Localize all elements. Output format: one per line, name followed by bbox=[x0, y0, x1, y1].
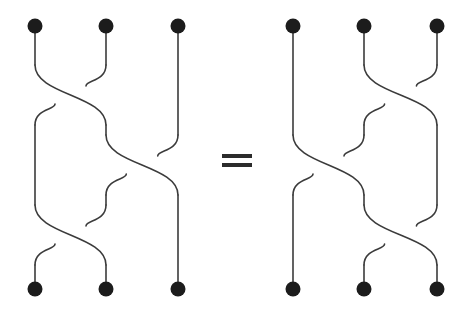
equals-bar-bottom bbox=[222, 163, 252, 167]
braid-strand-segment bbox=[293, 174, 313, 195]
braid-endpoint-node-top-1 bbox=[28, 19, 43, 34]
braid-endpoint-node-top-2 bbox=[357, 19, 372, 34]
braid-strand-segment bbox=[364, 104, 385, 125]
braid-endpoint-node-bottom-3 bbox=[430, 282, 445, 297]
braid-endpoint-node-bottom-3 bbox=[171, 282, 186, 297]
braid-strand-segment bbox=[35, 65, 106, 125]
braid-endpoint-node-top-1 bbox=[286, 19, 301, 34]
braid-diagram-canvas bbox=[0, 0, 473, 309]
braid-strand-segment bbox=[106, 135, 178, 195]
braid-strand-segment bbox=[364, 205, 437, 265]
equals-sign bbox=[222, 154, 252, 167]
braid-endpoint-node-top-3 bbox=[171, 19, 186, 34]
braid-strand-segment bbox=[416, 65, 437, 86]
braid-strand-segment bbox=[86, 65, 106, 86]
braid-endpoint-node-top-2 bbox=[99, 19, 114, 34]
braid-strand-segment bbox=[35, 205, 106, 265]
braid-endpoint-node-bottom-2 bbox=[357, 282, 372, 297]
braid-endpoint-node-bottom-1 bbox=[28, 282, 43, 297]
braid-strand-segment bbox=[106, 174, 126, 195]
braid-endpoint-node-top-3 bbox=[430, 19, 445, 34]
braid-strand-segment bbox=[344, 135, 364, 156]
braid-relation-figure bbox=[0, 0, 473, 309]
equals-bar-top bbox=[222, 154, 252, 158]
braid-strand-segment bbox=[364, 65, 437, 125]
braid-strand-segment bbox=[364, 244, 385, 265]
braid-strand-segment bbox=[86, 205, 106, 226]
braid-endpoint-node-bottom-2 bbox=[99, 282, 114, 297]
braid-strand-segment bbox=[293, 135, 364, 195]
braid-strand-segment bbox=[416, 205, 437, 226]
braid-endpoint-node-bottom-1 bbox=[286, 282, 301, 297]
braid-strand-segment bbox=[35, 244, 55, 265]
braid-strand-segment bbox=[158, 135, 178, 156]
braid-strand-segment bbox=[35, 104, 55, 125]
